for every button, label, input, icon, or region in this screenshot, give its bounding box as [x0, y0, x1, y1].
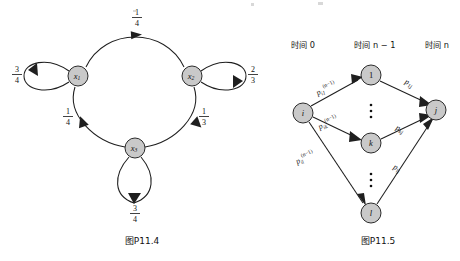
edge-label-x2-self-loop: 2 3 [248, 65, 258, 85]
ellipsis-lower [370, 173, 373, 188]
frac-numerator: 1 [202, 107, 206, 116]
arrowhead-x2-self-loop [233, 75, 243, 88]
edge-x2-self-loop [201, 62, 246, 90]
arrowhead-i-k [349, 131, 362, 142]
time-header-n: 时间 n [425, 40, 449, 50]
frac-numerator: 3 [133, 204, 137, 213]
node-1-label: 1 [369, 70, 373, 80]
frac-denominator: 3 [202, 118, 206, 127]
arrowhead-x3-self-loop [128, 193, 141, 204]
node-k-label: k [369, 138, 373, 148]
frac-denominator: 4 [133, 215, 137, 224]
edge-label-i-1: pi1(n−1) [313, 78, 338, 98]
node-x1: x1 [68, 66, 88, 86]
edge-x1-x3 [73, 87, 125, 147]
edge-label-x1-x3: 1 4 [63, 107, 73, 127]
node-x2: x2 [182, 66, 202, 86]
caption-p11-4: 图P11.4 [125, 236, 160, 246]
edge-label-x1-self-loop: 3 4 [12, 65, 22, 85]
node-j: j [426, 100, 446, 120]
edge-label-k-j: pkj [393, 123, 406, 136]
node-i: i [293, 103, 313, 123]
frac-numerator: 1 [66, 107, 70, 116]
edge-x1-self-loop [24, 62, 69, 90]
time-header-0: 时间 0 [291, 40, 315, 50]
arrowhead-i-l [357, 193, 366, 206]
edge-label-i-l: pil(n−1) [292, 148, 316, 168]
frac-numerator: 3 [15, 65, 19, 74]
arrowhead-x1-self-loop [28, 63, 38, 76]
frac-numerator: 2 [251, 65, 255, 74]
caption-p11-5: 图P11.5 [361, 236, 395, 246]
ellipsis-dot [370, 116, 373, 119]
ellipsis-dot [370, 104, 373, 107]
frac-denominator: 4 [66, 118, 70, 127]
edge-i-l [309, 122, 363, 203]
ellipsis-dot [370, 185, 373, 188]
figures-canvas: x1 x2 x3 1 4 1 4 1 3 3 4 [0, 0, 460, 261]
scan-speck [318, 2, 323, 5]
scan-speck [251, 3, 254, 6]
edge-label-x3-self-loop: 3 4 [130, 204, 140, 224]
ellipsis-dot [370, 110, 373, 113]
edge-label-l-j: plj [391, 162, 403, 175]
figure-p11-5: 时间 0 时间 n − 1 时间 n i [291, 40, 449, 246]
node-k: k [361, 133, 381, 153]
arrowhead-x1-x2 [131, 31, 143, 40]
ellipsis-upper [370, 104, 373, 119]
arrowhead-x2-x3 [189, 116, 202, 130]
frac-denominator: 3 [251, 76, 255, 85]
frac-numerator: 1 [135, 8, 139, 17]
edge-label-i-k: pik(n−1) [315, 112, 340, 132]
node-1: 1 [361, 65, 381, 85]
time-header-n-minus-1: 时间 n − 1 [354, 40, 395, 50]
ellipsis-dot [370, 179, 373, 182]
frac-denominator: 4 [15, 76, 19, 85]
figure-p11-4: x1 x2 x3 1 4 1 4 1 3 3 4 [12, 8, 258, 246]
edge-l-j [377, 120, 432, 204]
node-x3: x3 [125, 138, 145, 158]
edge-label-1-j: p1j [402, 76, 415, 89]
edge-x2-x3 [145, 87, 196, 147]
node-l: l [361, 203, 381, 223]
ellipsis-dot [370, 173, 373, 176]
edge-x1-x2 [86, 37, 184, 67]
figure-plate: x1 x2 x3 1 4 1 4 1 3 3 4 [0, 0, 460, 261]
edge-label-x2-x3: 1 3 [199, 107, 209, 127]
frac-denominator: 4 [135, 19, 139, 28]
